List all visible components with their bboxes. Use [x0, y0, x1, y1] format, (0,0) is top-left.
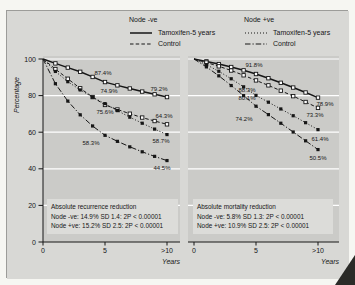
legend-node-positive: Node +ve Tamoxifen-5 yearsControl [244, 15, 330, 49]
data-point-marker [103, 134, 106, 137]
x-tick-label: >10 [312, 247, 324, 254]
legend-label: Control [158, 39, 181, 49]
data-point-marker [267, 84, 270, 87]
data-point-marker [79, 70, 82, 73]
value-label: 74.9% [100, 88, 118, 94]
data-point-marker [217, 65, 220, 68]
data-point-marker [79, 88, 82, 91]
x-tick-label: 5 [254, 247, 258, 254]
data-point-marker [153, 119, 156, 122]
data-point-marker [141, 122, 144, 125]
data-point-marker [316, 106, 319, 109]
data-point-marker [165, 95, 168, 98]
data-point-marker [242, 69, 245, 72]
legend-line-sample-dashdot [244, 40, 268, 48]
data-point-marker [304, 100, 307, 103]
data-point-marker [91, 96, 94, 99]
legend-line-sample-solid [129, 29, 153, 37]
y-tick-label: 60 [28, 129, 36, 136]
legend-item: Control [129, 38, 215, 49]
legend-line-sample-dashed [129, 40, 153, 48]
recurrence-note-box: Absolute recurrence reduction Node -ve: … [47, 199, 178, 234]
data-point-marker [153, 93, 156, 96]
x-axis-label: Years [321, 258, 339, 265]
data-point-marker [292, 86, 295, 89]
data-point-marker [66, 66, 69, 69]
data-point-marker [205, 65, 208, 68]
data-point-marker [153, 127, 156, 130]
data-point-marker [128, 87, 131, 90]
value-label: 44.5% [153, 165, 171, 171]
data-point-marker [267, 77, 270, 80]
data-point-marker [279, 81, 282, 84]
mortality-note-line2: Node +ve: 10.9% SD 2.5: 2P < 0.00001 [197, 221, 329, 231]
data-point-marker [217, 74, 220, 77]
legend-node-negative: Node -ve Tamoxifen-5 yearsControl [129, 15, 215, 49]
x-tick-label: 0 [192, 247, 196, 254]
value-label: 58.7% [152, 138, 170, 144]
data-point-marker [254, 72, 257, 75]
mortality-note-line1: Node -ve: 5.8% SD 1.3: 2P < 0.00001 [197, 212, 329, 222]
legend-rows-node-negative: Tamoxifen-5 yearsControl [129, 27, 215, 49]
legend-label: Control [273, 39, 296, 49]
value-label: 74.2% [235, 116, 253, 122]
recurrence-note-line1: Node -ve: 14.9% SD 1.4: 2P < 0.00001 [51, 212, 174, 222]
legend-item: Tamoxifen-5 years [244, 27, 330, 38]
data-point-marker [316, 128, 319, 131]
value-label: 73.3% [306, 112, 324, 118]
y-tick-label: 80 [28, 92, 36, 99]
data-point-marker [116, 140, 119, 143]
data-point-marker [165, 159, 168, 162]
data-point-marker [279, 89, 282, 92]
data-point-marker [165, 133, 168, 136]
data-point-marker [230, 69, 233, 72]
legend-title-node-positive: Node +ve [244, 15, 330, 25]
data-point-marker [66, 77, 69, 80]
mortality-note-box: Absolute mortality reduction Node -ve: 5… [193, 199, 333, 234]
data-point-marker [128, 116, 131, 119]
data-point-marker [304, 91, 307, 94]
data-point-marker [292, 130, 295, 133]
survival-chart: 05>10Years87.4%79.2%74.9%64.3%75.6%58.7%… [7, 11, 349, 279]
data-point-marker [230, 77, 233, 80]
y-axis-label: Percentage [13, 77, 21, 113]
data-point-marker [79, 113, 82, 116]
x-tick-label: 5 [103, 247, 107, 254]
data-point-marker [91, 124, 94, 127]
legend-label: Tamoxifen-5 years [158, 28, 215, 38]
y-tick-label: 100 [24, 56, 36, 63]
mortality-note-title: Absolute mortality reduction [197, 202, 329, 212]
recurrence-note-title: Absolute recurrence reduction [51, 202, 174, 212]
value-label: 75.6% [96, 109, 114, 115]
data-point-marker [279, 122, 282, 125]
data-point-marker [267, 101, 270, 104]
data-point-marker [267, 113, 270, 116]
legend-line-sample-dotted [244, 29, 268, 37]
recurrence-note-line2: Node +ve: 15.2% SD 2.5: 2P < 0.00001 [51, 221, 174, 231]
value-label: 61.4% [311, 136, 329, 142]
data-point-marker [128, 112, 131, 115]
data-point-marker [116, 109, 119, 112]
value-label: 64.3% [155, 113, 173, 119]
value-label: 88.3% [238, 87, 256, 93]
value-label: 87.4% [94, 70, 112, 76]
data-point-marker [242, 85, 245, 88]
x-tick-label: >10 [161, 247, 173, 254]
x-axis-label: Years [162, 258, 180, 265]
data-point-marker [292, 114, 295, 117]
legend-item: Control [244, 38, 330, 49]
data-point-marker [316, 148, 319, 151]
data-point-marker [292, 94, 295, 97]
value-label: 79.2% [150, 86, 168, 92]
legend-rows-node-positive: Tamoxifen-5 yearsControl [244, 27, 330, 49]
y-tick-label: 40 [28, 165, 36, 172]
figure-panel: 05>10Years87.4%79.2%74.9%64.3%75.6%58.7%… [6, 10, 348, 278]
data-point-marker [54, 62, 57, 65]
data-point-marker [54, 70, 57, 73]
data-point-marker [242, 74, 245, 77]
legend-label: Tamoxifen-5 years [273, 28, 330, 38]
data-point-marker [230, 84, 233, 87]
legend-title-node-negative: Node -ve [129, 15, 215, 25]
legend-item: Tamoxifen-5 years [129, 27, 215, 38]
data-point-marker [66, 80, 69, 83]
